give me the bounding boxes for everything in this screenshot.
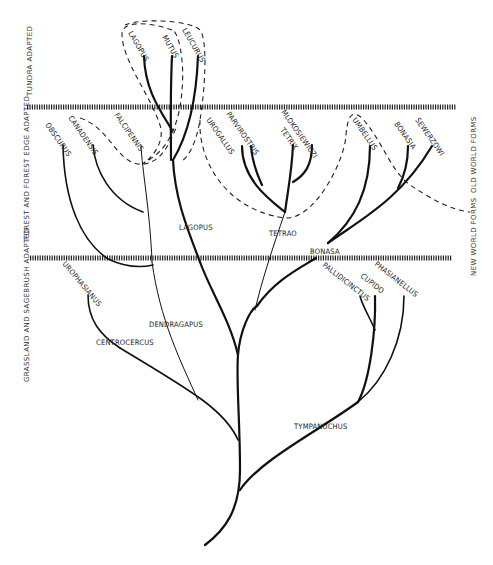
- genus-label-tetrao: TETRAO: [268, 229, 297, 238]
- zone-label-forest: FOREST AND FOREST EDGE ADAPTED: [23, 96, 31, 240]
- genus-label-dendragapus: DENDRAGAPUS: [149, 320, 203, 329]
- phylogeny-diagram: TUNDRA ADAPTED FOREST AND FOREST EDGE AD…: [0, 0, 493, 565]
- genus-label-lagopus: LAGOPUS: [179, 223, 213, 232]
- zone-label-tundra: TUNDRA ADAPTED: [26, 26, 34, 97]
- species-label-leucurus: LEUCURUS: [180, 27, 207, 65]
- branch-canadensis: [93, 145, 143, 212]
- branch-tetrao-upper: [285, 145, 293, 212]
- branch-dendragapus-upper: [141, 145, 152, 262]
- branch-mutus: [171, 56, 172, 160]
- species-label-urophasianus: UROPHASIANUS: [60, 260, 103, 309]
- branch-tympanuchus: [240, 402, 358, 490]
- branch-centrocercus: [120, 348, 238, 440]
- genus-label-tympanuchus: TYMPANUCHUS: [293, 422, 347, 431]
- branch-lagopus-upper: [173, 160, 200, 262]
- branch-right-trunk: [238, 306, 257, 355]
- side-label-old-world: OLD WORLD FORMS: [470, 116, 478, 193]
- branch-urogallus: [242, 146, 285, 212]
- zone-label-grassland: GRASSLAND AND SAGEBRUSH ADAPTED: [23, 228, 31, 382]
- branch-tetrao: [255, 212, 285, 310]
- genus-label-centrocercus: CENTROCERCUS: [96, 338, 154, 347]
- trunk-main: [237, 355, 240, 470]
- species-label-bonasia: BONASIA: [392, 120, 418, 151]
- side-label-new-world: NEW WORLD FORMS: [470, 197, 478, 276]
- trunk-root: [205, 470, 240, 545]
- branch-dendragapus: [152, 262, 198, 400]
- branch-bonasa: [257, 258, 316, 306]
- branch-lagopus: [200, 262, 238, 355]
- branch-obscurus: [63, 145, 108, 259]
- species-label-obscurus: OBSCURUS: [43, 121, 73, 158]
- genus-label-bonasa: BONASA: [310, 247, 340, 256]
- species-label-falcipennis: FALCIPENNIS: [112, 111, 145, 153]
- species-label-mutus: MUTUS: [160, 34, 180, 60]
- species-label-lagopus: LAGOPUS: [126, 30, 151, 64]
